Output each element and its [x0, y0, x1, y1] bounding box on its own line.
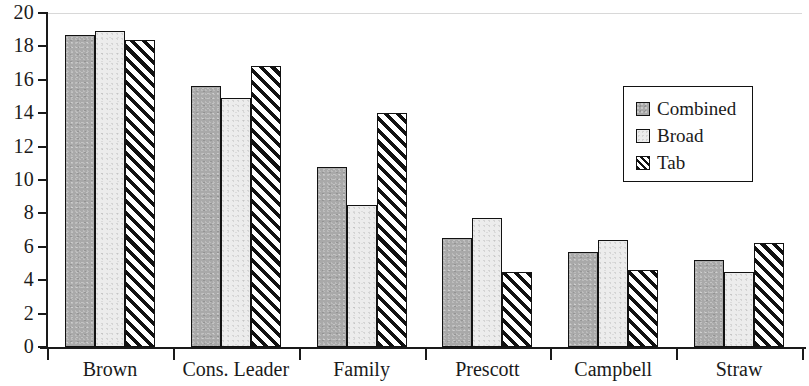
- y-axis-tick-label: 18: [2, 35, 34, 55]
- y-axis-tick: [38, 179, 47, 181]
- y-axis-tick: [38, 313, 47, 315]
- legend-item: Combined: [636, 96, 752, 122]
- y-axis-tick: [38, 279, 47, 281]
- legend-swatch-combined-icon: [636, 102, 650, 116]
- x-axis-label: Prescott: [425, 357, 551, 381]
- legend-item: Tab: [636, 150, 752, 176]
- y-axis-tick-label: 8: [2, 202, 34, 222]
- legend-item: Broad: [636, 123, 752, 149]
- y-axis-tick: [38, 45, 47, 47]
- x-axis-label: Brown: [47, 357, 173, 381]
- x-axis-label: Cons. Leader: [173, 357, 299, 381]
- y-axis-tick-label: 14: [2, 102, 34, 122]
- bar-cons-leader-broad: [221, 98, 251, 347]
- legend-label: Tab: [657, 153, 685, 173]
- y-axis-tick-label: 10: [2, 169, 34, 189]
- y-axis-tick: [38, 112, 47, 114]
- bar-campbell-tab: [628, 270, 658, 347]
- legend: Combined Broad Tab: [623, 86, 753, 182]
- x-axis-label: Straw: [676, 357, 802, 381]
- bar-cons-leader-combined: [191, 86, 221, 347]
- bar-straw-broad: [724, 272, 754, 347]
- bar-family-combined: [317, 167, 347, 347]
- legend-swatch-tab-icon: [636, 156, 650, 170]
- y-axis-tick: [38, 246, 47, 248]
- y-axis-tick-label: 16: [2, 69, 34, 89]
- x-axis-line: [40, 347, 806, 349]
- bar-prescott-combined: [442, 238, 472, 347]
- bar-campbell-broad: [598, 240, 628, 347]
- bar-chart: 02468101214161820 BrownCons. LeaderFamil…: [0, 0, 809, 386]
- bar-straw-tab: [754, 243, 784, 347]
- x-axis-label: Family: [299, 357, 425, 381]
- y-axis-tick-label: 2: [2, 303, 34, 323]
- bar-prescott-broad: [472, 218, 502, 347]
- legend-label: Broad: [657, 126, 703, 146]
- bar-prescott-tab: [502, 272, 532, 347]
- bar-family-broad: [347, 205, 377, 347]
- y-axis-tick-label: 0: [2, 336, 34, 356]
- y-axis-tick-label: 12: [2, 136, 34, 156]
- x-axis-tick: [802, 349, 804, 360]
- bar-cons-leader-tab: [251, 66, 281, 347]
- bar-brown-tab: [125, 40, 155, 347]
- y-axis-tick: [38, 12, 47, 14]
- bar-campbell-combined: [568, 252, 598, 347]
- bar-brown-broad: [95, 31, 125, 347]
- y-axis-tick-label: 4: [2, 269, 34, 289]
- legend-label: Combined: [657, 99, 736, 119]
- y-axis-tick: [38, 212, 47, 214]
- y-axis-tick: [38, 346, 47, 348]
- y-axis-tick: [38, 79, 47, 81]
- bar-straw-combined: [694, 260, 724, 347]
- y-axis-tick: [38, 146, 47, 148]
- bar-brown-combined: [65, 35, 95, 347]
- legend-swatch-broad-icon: [636, 129, 650, 143]
- y-axis-tick-label: 20: [2, 2, 34, 22]
- y-axis-tick-label: 6: [2, 236, 34, 256]
- bar-family-tab: [377, 113, 407, 347]
- x-axis-label: Campbell: [550, 357, 676, 381]
